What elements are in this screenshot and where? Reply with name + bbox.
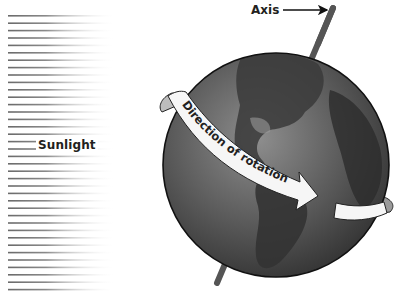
sunlight-ray bbox=[8, 104, 116, 106]
sunlight-ray bbox=[8, 237, 116, 239]
sunlight-ray bbox=[8, 15, 116, 17]
sunlight-ray bbox=[8, 133, 116, 135]
sunlight-ray bbox=[8, 89, 116, 91]
sunlight-ray bbox=[8, 111, 116, 113]
sunlight-ray bbox=[8, 119, 116, 121]
earth-globe-icon bbox=[163, 53, 389, 277]
sunlight-ray bbox=[8, 170, 116, 172]
sunlight-ray bbox=[8, 67, 116, 69]
sunlight-ray bbox=[8, 45, 116, 47]
axis-rod-top-icon bbox=[318, 8, 333, 44]
sunlight-ray bbox=[8, 37, 116, 39]
sunlight-ray bbox=[8, 289, 116, 291]
sunlight-ray bbox=[8, 281, 116, 283]
sunlight-ray bbox=[8, 222, 116, 224]
sunlight-ray bbox=[8, 230, 116, 232]
axis-label: Axis bbox=[251, 3, 279, 17]
sunlight-ray bbox=[8, 82, 116, 84]
sunlight-ray bbox=[8, 244, 116, 246]
sunlight-ray bbox=[8, 52, 116, 54]
sunlight-ray bbox=[8, 252, 116, 254]
sunlight-ray bbox=[8, 178, 116, 180]
sunlight-ray bbox=[8, 215, 116, 217]
sunlight-ray bbox=[8, 207, 116, 209]
sunlight-ray bbox=[8, 259, 116, 261]
sunlight-ray bbox=[8, 30, 116, 32]
sunlight-rays-icon bbox=[8, 15, 116, 290]
sunlight-ray bbox=[8, 267, 116, 269]
sunlight-ray bbox=[8, 126, 116, 128]
sunlight-ray bbox=[8, 156, 116, 158]
sunlight-ray bbox=[8, 200, 116, 202]
sunlight-ray bbox=[8, 274, 116, 276]
sunlight-label: Sunlight bbox=[36, 138, 98, 152]
sunlight-ray bbox=[8, 74, 116, 76]
rotation-diagram: Direction of rotation Sunlight Axis bbox=[0, 0, 399, 293]
sunlight-ray bbox=[8, 96, 116, 98]
sunlight-ray bbox=[8, 185, 116, 187]
sunlight-ray bbox=[8, 163, 116, 165]
sunlight-ray bbox=[8, 193, 116, 195]
sunlight-ray bbox=[8, 59, 116, 61]
sunlight-ray bbox=[8, 22, 116, 24]
